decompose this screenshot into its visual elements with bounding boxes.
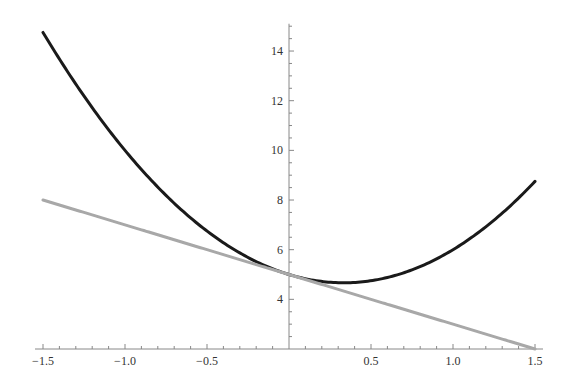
x-tick-label: 1.0 xyxy=(446,354,461,368)
y-tick-label: 14 xyxy=(271,44,283,58)
x-tick-label: −0.5 xyxy=(196,354,218,368)
x-tick-label: 0.5 xyxy=(364,354,379,368)
x-tick-label: 1.5 xyxy=(528,354,543,368)
x-tick-label: −1.5 xyxy=(32,354,54,368)
y-tick-label: 4 xyxy=(277,292,283,306)
y-axis-ticks xyxy=(289,26,294,336)
plot-area: −1.5−1.0−0.50.51.01.5 468101214 xyxy=(0,0,579,390)
y-tick-label: 10 xyxy=(271,143,283,157)
x-axis-tick-labels: −1.5−1.0−0.50.51.01.5 xyxy=(32,354,542,368)
y-tick-label: 8 xyxy=(277,193,283,207)
y-axis-tick-labels: 468101214 xyxy=(271,44,283,306)
y-tick-label: 6 xyxy=(277,243,283,257)
axes: −1.5−1.0−0.50.51.01.5 468101214 xyxy=(32,24,543,368)
y-tick-label: 12 xyxy=(271,94,283,108)
x-tick-label: −1.0 xyxy=(114,354,136,368)
